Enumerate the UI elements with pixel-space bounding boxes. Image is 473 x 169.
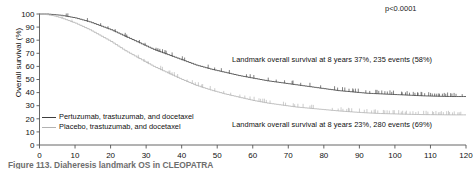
p-value-label: p<0.0001 [385, 4, 417, 13]
svg-text:80: 80 [26, 36, 35, 45]
svg-text:110: 110 [424, 151, 437, 160]
svg-text:100: 100 [388, 151, 402, 160]
svg-text:0: 0 [37, 151, 42, 160]
svg-text:10: 10 [26, 128, 35, 137]
svg-text:70: 70 [284, 151, 293, 160]
svg-text:20: 20 [26, 115, 35, 124]
svg-text:120: 120 [459, 151, 473, 160]
legend-swatch-pertuzumab [42, 117, 56, 118]
figure-caption: Figure 113. Diaheresis landmark OS in CL… [8, 160, 213, 169]
y-axis-label: Overall survival (%) [14, 3, 23, 123]
svg-text:50: 50 [213, 151, 222, 160]
annotation-pertuzumab-landmark: Landmark overall survival at 8 years 37%… [232, 55, 432, 64]
svg-text:40: 40 [26, 88, 35, 97]
legend-swatch-placebo [42, 127, 56, 128]
svg-text:60: 60 [26, 62, 35, 71]
kaplan-meier-figure: 0102030405060708090100010203040506070809… [0, 0, 473, 169]
svg-text:70: 70 [26, 49, 35, 58]
svg-text:30: 30 [142, 151, 151, 160]
svg-text:10: 10 [71, 151, 80, 160]
svg-text:0: 0 [30, 141, 35, 150]
axes: 0102030405060708090100010203040506070809… [21, 10, 473, 160]
svg-text:90: 90 [26, 23, 35, 32]
annotation-placebo-landmark: Landmark overall survival at 8 years 23%… [232, 120, 432, 129]
svg-text:20: 20 [106, 151, 115, 160]
svg-text:90: 90 [355, 151, 364, 160]
svg-text:60: 60 [248, 151, 257, 160]
svg-text:50: 50 [26, 75, 35, 84]
svg-text:100: 100 [21, 10, 35, 19]
svg-text:40: 40 [177, 151, 186, 160]
legend-label-placebo: Placebo, trastuzumab, and docetaxel [59, 122, 181, 131]
svg-text:30: 30 [26, 101, 35, 110]
legend-label-pertuzumab: Pertuzumab, trastuzumab, and docetaxel [59, 112, 194, 121]
svg-text:80: 80 [319, 151, 328, 160]
survival-curves [40, 13, 467, 115]
survival-plot-canvas: 0102030405060708090100010203040506070809… [0, 0, 473, 169]
